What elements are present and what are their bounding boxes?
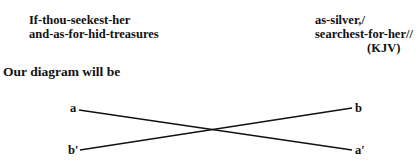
label-b-prime: b′	[68, 143, 78, 157]
chiasm-diagram	[0, 0, 420, 167]
label-b: b	[355, 101, 362, 115]
label-a-prime: a′	[355, 143, 365, 157]
label-a: a	[70, 101, 76, 115]
